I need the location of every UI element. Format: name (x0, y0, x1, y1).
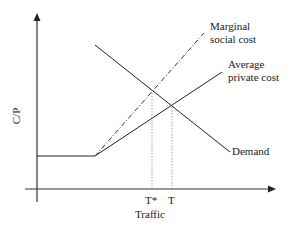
demand-curve (95, 45, 230, 152)
msc-label-line1: Marginal (210, 20, 250, 32)
demand-label: Demand (232, 145, 269, 157)
x-axis-label: Traffic (135, 208, 165, 220)
msc-label-line2: social cost (210, 33, 256, 45)
x-tick-t: T (168, 194, 175, 206)
x-axis-arrow-icon (268, 186, 276, 193)
y-axis-arrow-icon (34, 13, 41, 21)
average-private-cost-curve (95, 72, 222, 156)
y-axis-label: C/P (10, 108, 22, 125)
apc-label-line2: private cost (228, 71, 279, 83)
apc-label-line1: Average (228, 58, 264, 70)
x-tick-t-star: T* (145, 194, 157, 206)
